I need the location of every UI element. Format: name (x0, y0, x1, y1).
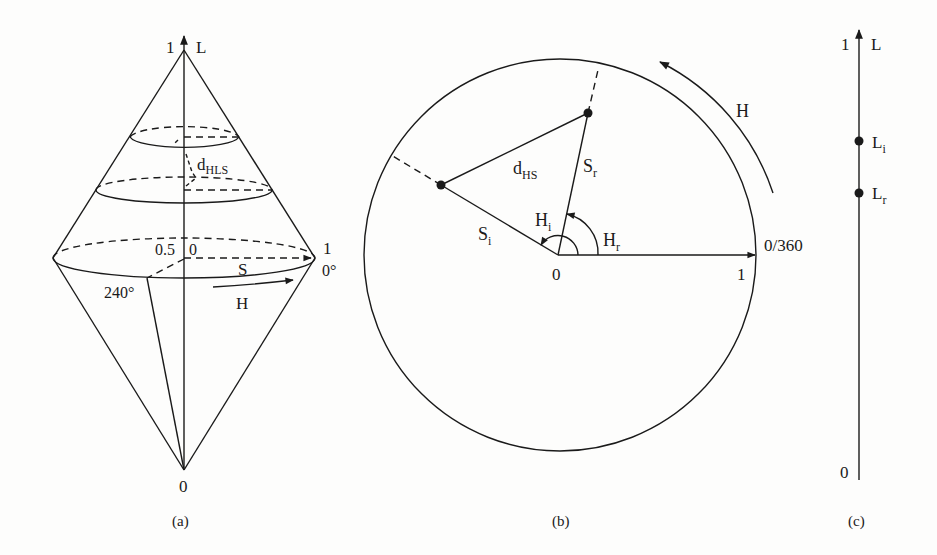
hls-distance-figure: 1 L dHLS 0.5 0 1 0° S 240° H 0 (a) H (0, 0, 937, 555)
hue-label: H (236, 294, 248, 313)
center-label-0-5: 0.5 (155, 241, 175, 258)
center-label-zero: 0 (189, 241, 197, 258)
unit-radius-label: 1 (737, 265, 746, 284)
panel-a-double-cone: 1 L dHLS 0.5 0 1 0° S 240° H 0 (a) (53, 36, 336, 530)
panel-b-caption: (b) (552, 513, 570, 530)
panel-a-caption: (a) (172, 513, 189, 530)
cone-left-upper-edge (53, 50, 184, 258)
point-li (855, 137, 864, 146)
cone-right-lower-edge (184, 258, 315, 470)
panel-b-hs-circle: H dHS Sr Si Hi Hr 0 1 0/360 (b) (364, 59, 803, 530)
sr-extension (588, 70, 598, 113)
angle-240-label: 240° (104, 284, 134, 301)
angle-0-360-label: 0/360 (764, 236, 803, 255)
rim-value-label: 1 (323, 239, 332, 258)
l-axis-label: L (871, 35, 881, 54)
l-axis-bottom-value: 0 (840, 463, 849, 482)
l-axis-label: L (196, 38, 206, 57)
l-axis-top-value: 1 (166, 38, 175, 57)
l-axis-bottom-value: 0 (179, 477, 188, 496)
cone-right-upper-edge (184, 50, 315, 258)
point-r (584, 109, 593, 118)
panel-c-caption: (c) (848, 513, 865, 530)
sr-label: Sr (583, 156, 597, 180)
point-i (437, 181, 446, 190)
hr-angle-arc (567, 214, 598, 255)
sr-vector (558, 113, 588, 255)
hue-240-radius (147, 259, 184, 278)
hi-label: Hi (535, 210, 552, 234)
si-extension (391, 155, 441, 185)
hue-direction-arrow (213, 280, 293, 287)
point-lr (855, 189, 864, 198)
si-label: Si (478, 224, 492, 248)
li-label: Li (872, 133, 886, 156)
panel-c-lightness-axis: 1 L Li Lr 0 (c) (840, 30, 886, 530)
saturation-label: S (238, 260, 247, 279)
hue-direction-arrow (660, 62, 773, 193)
origin-label: 0 (552, 265, 561, 284)
hue-label: H (736, 101, 749, 121)
dhls-label: dHLS (197, 155, 228, 177)
l-axis-top-value: 1 (841, 35, 850, 54)
lr-label: Lr (872, 184, 886, 207)
dhs-label: dHS (513, 158, 537, 182)
rim-angle-label: 0° (322, 262, 336, 279)
hr-label: Hr (603, 230, 620, 254)
